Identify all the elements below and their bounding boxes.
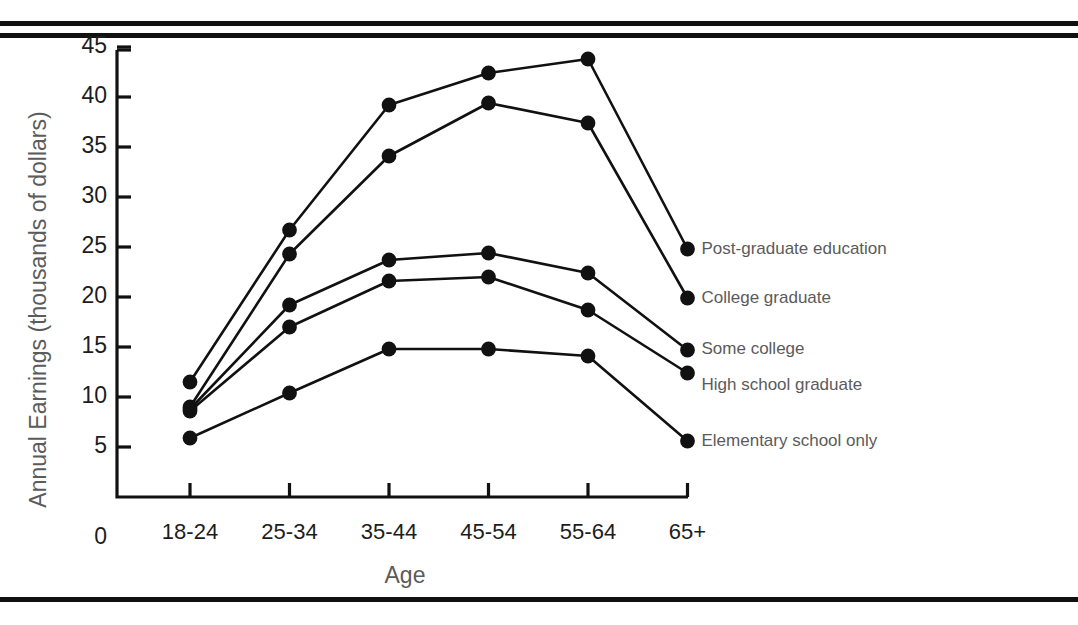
data-point xyxy=(382,253,397,268)
y-tick-label: 10 xyxy=(55,382,107,409)
data-point xyxy=(282,247,297,262)
data-point xyxy=(382,342,397,357)
line-chart: Annual Earnings (thousands of dollars) A… xyxy=(0,38,1078,596)
data-point xyxy=(382,98,397,113)
y-axis-title: Annual Earnings (thousands of dollars) xyxy=(25,100,52,520)
series-label-elementary-school-only: Elementary school only xyxy=(702,431,878,451)
x-tick-label: 25-34 xyxy=(235,519,345,545)
y-tick-label: 35 xyxy=(55,132,107,159)
series-college-graduate xyxy=(183,96,695,415)
data-point xyxy=(481,96,496,111)
data-point xyxy=(680,366,695,381)
y-tick-label: 45 xyxy=(55,32,107,59)
y-ticks xyxy=(117,47,131,447)
top-rule-1 xyxy=(0,21,1078,26)
data-point xyxy=(481,342,496,357)
x-tick-label: 55-64 xyxy=(533,519,643,545)
data-point xyxy=(581,349,596,364)
data-point xyxy=(680,291,695,306)
series-post-graduate-education xyxy=(183,52,695,390)
series-label-some-college: Some college xyxy=(702,339,805,359)
y-tick-label: 30 xyxy=(55,182,107,209)
x-tick-label: 65+ xyxy=(633,519,743,545)
data-point xyxy=(581,116,596,131)
series-high-school-graduate xyxy=(183,270,695,419)
y-tick-label: 40 xyxy=(55,82,107,109)
data-point xyxy=(183,404,198,419)
series-label-college-graduate: College graduate xyxy=(702,288,831,308)
data-point xyxy=(382,149,397,164)
data-point xyxy=(680,242,695,257)
data-point xyxy=(680,343,695,358)
data-point xyxy=(282,298,297,313)
x-ticks xyxy=(190,483,688,497)
data-point xyxy=(481,66,496,81)
data-point xyxy=(382,274,397,289)
series-label-high-school-graduate: High school graduate xyxy=(702,375,863,395)
y-zero-label: 0 xyxy=(55,523,107,550)
x-tick-label: 18-24 xyxy=(135,519,245,545)
series-label-post-graduate-education: Post-graduate education xyxy=(702,239,887,259)
y-tick-label: 20 xyxy=(55,282,107,309)
data-point xyxy=(581,52,596,67)
data-point xyxy=(581,266,596,281)
data-point xyxy=(183,375,198,390)
series-some-college xyxy=(183,246,695,417)
data-point xyxy=(581,303,596,318)
data-point xyxy=(282,386,297,401)
axis-lines xyxy=(117,50,688,497)
data-point xyxy=(282,320,297,335)
data-point xyxy=(680,434,695,449)
plot-canvas xyxy=(0,38,1078,596)
data-point xyxy=(183,431,198,446)
data-point xyxy=(481,246,496,261)
figure-page: Annual Earnings (thousands of dollars) A… xyxy=(0,0,1078,625)
y-tick-label: 25 xyxy=(55,232,107,259)
data-point xyxy=(282,223,297,238)
x-axis-title: Age xyxy=(120,562,690,589)
x-tick-label: 45-54 xyxy=(434,519,544,545)
series-elementary-school-only xyxy=(183,342,695,449)
y-tick-label: 15 xyxy=(55,332,107,359)
y-tick-label: 5 xyxy=(55,432,107,459)
data-point xyxy=(481,270,496,285)
x-tick-label: 35-44 xyxy=(334,519,444,545)
bottom-rule xyxy=(0,597,1078,602)
